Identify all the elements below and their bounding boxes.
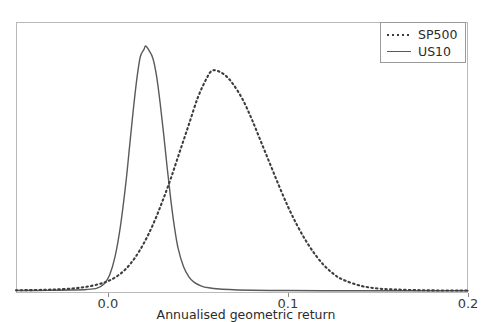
- series-line-sp500: [16, 70, 468, 290]
- top-clipped-text-artifact: [0, 0, 492, 9]
- legend-item-us10[interactable]: US10: [386, 43, 460, 60]
- legend-label-us10: US10: [418, 44, 451, 59]
- legend: SP500 US10: [380, 22, 466, 63]
- legend-swatch-solid-icon: [386, 46, 412, 58]
- legend-item-sp500[interactable]: SP500: [386, 26, 460, 43]
- series-line-us10: [16, 46, 468, 291]
- x-axis-title: Annualised geometric return: [0, 308, 492, 322]
- density-plot-figure: 0.00.10.2 Annualised geometric return SP…: [0, 0, 492, 322]
- legend-label-sp500: SP500: [418, 27, 457, 42]
- legend-swatch-dotted-icon: [386, 29, 412, 41]
